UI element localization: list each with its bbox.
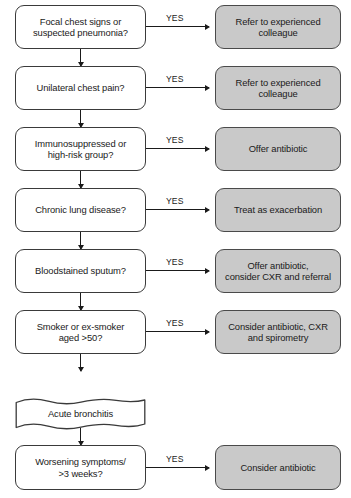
yes-arrow-worsening-symptoms	[146, 467, 209, 468]
decision-node-label: Bloodstained sputum?	[35, 265, 126, 276]
yes-arrow-smoker	[146, 331, 209, 332]
flow-arrow-3-to-4	[80, 171, 81, 188]
action-node-label: Consider antibiotic	[240, 462, 315, 473]
action-node-offer-antibiotic-cxr-referral[interactable]: Offer antibiotic, consider CXR and refer…	[215, 249, 341, 293]
decision-node-smoker[interactable]: Smoker or ex-smoker aged >50?	[15, 310, 146, 354]
decision-node-label: Immunosuppressed or high-risk group?	[35, 138, 126, 161]
decision-node-label: Focal chest signs or suspected pneumonia…	[33, 16, 128, 39]
decision-node-unilateral-chest-pain[interactable]: Unilateral chest pain?	[15, 66, 146, 110]
flow-arrow-2-to-3	[80, 110, 81, 127]
action-node-label: Offer antibiotic	[249, 143, 308, 154]
yes-label-bloodstained-sputum: YES	[166, 257, 184, 267]
yes-arrow-chronic-lung-disease	[146, 209, 209, 210]
decision-node-worsening-symptoms[interactable]: Worsening symptoms/ >3 weeks?	[15, 445, 146, 490]
action-node-refer-experienced-colleague-2[interactable]: Refer to experienced colleague	[215, 66, 341, 110]
action-node-label: Refer to experienced colleague	[235, 77, 320, 100]
action-node-consider-antibiotic-cxr-spirometry[interactable]: Consider antibiotic, CXR and spirometry	[215, 310, 341, 354]
terminal-node-label: Acute bronchitis	[48, 408, 113, 419]
decision-node-chronic-lung-disease[interactable]: Chronic lung disease?	[15, 188, 146, 232]
yes-label-focal-chest-signs: YES	[166, 13, 184, 23]
yes-label-worsening-symptoms: YES	[166, 454, 184, 464]
decision-node-immunosuppressed[interactable]: Immunosuppressed or high-risk group?	[15, 127, 146, 171]
yes-label-unilateral-chest-pain: YES	[166, 74, 184, 84]
yes-arrow-focal-chest-signs	[146, 26, 209, 27]
action-node-label: Offer antibiotic, consider CXR and refer…	[225, 260, 331, 283]
flow-arrow-4-to-5	[80, 232, 81, 249]
yes-label-chronic-lung-disease: YES	[166, 196, 184, 206]
action-node-consider-antibiotic[interactable]: Consider antibiotic	[215, 445, 341, 490]
yes-arrow-unilateral-chest-pain	[146, 87, 209, 88]
decision-node-focal-chest-signs[interactable]: Focal chest signs or suspected pneumonia…	[15, 5, 146, 49]
terminal-node-acute-bronchitis[interactable]: Acute bronchitis	[15, 397, 146, 430]
flow-arrow-terminal-to-final	[80, 428, 81, 445]
decision-node-bloodstained-sputum[interactable]: Bloodstained sputum?	[15, 249, 146, 293]
yes-arrow-bloodstained-sputum	[146, 270, 209, 271]
action-node-refer-experienced-colleague-1[interactable]: Refer to experienced colleague	[215, 5, 341, 49]
action-node-treat-as-exacerbation[interactable]: Treat as exacerbation	[215, 188, 341, 232]
yes-label-immunosuppressed: YES	[166, 135, 184, 145]
flow-arrow-6-to-terminal	[80, 354, 81, 371]
decision-node-label: Chronic lung disease?	[35, 204, 126, 215]
decision-node-label: Worsening symptoms/ >3 weeks?	[35, 456, 126, 479]
flow-arrow-5-to-6	[80, 293, 81, 310]
flowchart-canvas: Focal chest signs or suspected pneumonia…	[0, 0, 351, 498]
action-node-label: Refer to experienced colleague	[235, 16, 320, 39]
yes-arrow-immunosuppressed	[146, 148, 209, 149]
action-node-label: Treat as exacerbation	[234, 204, 322, 215]
decision-node-label: Unilateral chest pain?	[37, 82, 125, 93]
action-node-label: Consider antibiotic, CXR and spirometry	[228, 321, 328, 344]
decision-node-label: Smoker or ex-smoker aged >50?	[37, 321, 125, 344]
action-node-offer-antibiotic-1[interactable]: Offer antibiotic	[215, 127, 341, 171]
flow-arrow-1-to-2	[80, 49, 81, 66]
yes-label-smoker: YES	[166, 318, 184, 328]
